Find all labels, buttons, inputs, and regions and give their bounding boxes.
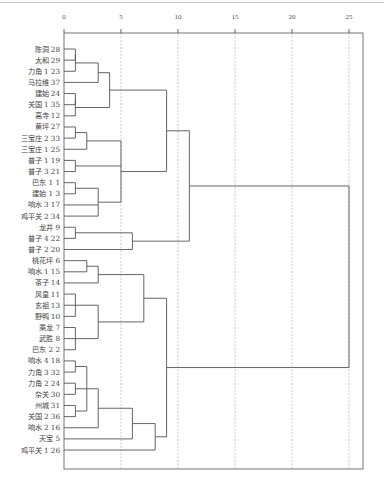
leaf-label: 州城 31: [35, 401, 60, 410]
leaf-label: 普子 4 22: [28, 234, 60, 243]
leaf-label: 风皇 11: [35, 290, 60, 299]
x-tick-label: 25: [346, 13, 354, 21]
leaf-label: 马拉维 37: [28, 78, 61, 87]
dendrogram-links: [64, 49, 349, 450]
x-tick-label: 15: [232, 13, 240, 21]
leaf-label: 普子 2 20: [28, 245, 61, 254]
leaf-label: 响水 3 17: [28, 200, 61, 209]
leaf-label: 巴东 1 1: [32, 178, 60, 187]
leaf-label: 鸡平关 2 34: [21, 212, 61, 221]
x-tick-label: 20: [289, 13, 297, 21]
leaf-labels: 陈洞 28太和 29力角 1 23马拉维 37建始 24关国 1 35高寺 12…: [21, 45, 61, 455]
leaf-label: 力角 2 24: [28, 379, 61, 388]
leaf-label: 巴东 2 2: [32, 345, 60, 354]
leaf-label: 响水 4 18: [28, 356, 61, 365]
leaf-label: 茶子 14: [35, 278, 61, 287]
leaf-label: 杂关 30: [35, 390, 61, 399]
leaf-label: 龙井 9: [39, 223, 60, 232]
dendrogram-chart: 0510152025 陈洞 28太和 29力角 1 23马拉维 37建始 24关…: [0, 0, 384, 492]
leaf-label: 桃花坪 6: [32, 256, 60, 265]
x-axis-ticks: 0510152025: [62, 13, 353, 33]
leaf-label: 黄坪 27: [35, 122, 61, 131]
x-tick-label: 0: [62, 13, 66, 21]
leaf-label: 三宝庄 2 33: [21, 134, 61, 143]
leaf-label: 天宝 5: [39, 434, 60, 443]
x-tick-label: 10: [175, 13, 183, 21]
leaf-label: 高寺 12: [35, 111, 60, 120]
leaf-label: 鸡平关 1 26: [21, 446, 61, 455]
plot-frame: [64, 33, 363, 469]
leaf-label: 玄祖 13: [35, 301, 61, 310]
leaf-label: 陈洞 28: [35, 45, 61, 54]
leaf-label: 普子 3 21: [28, 167, 60, 176]
leaf-label: 力角 3 32: [28, 368, 60, 377]
leaf-label: 响水 1 15: [28, 267, 61, 276]
grid-lines: [121, 33, 349, 469]
leaf-label: 乘龙 7: [39, 323, 60, 332]
leaf-label: 太和 29: [35, 56, 61, 65]
leaf-label: 武胜 8: [39, 334, 60, 343]
leaf-label: 响水 2 16: [28, 423, 61, 432]
leaf-label: 力角 1 23: [28, 67, 61, 76]
x-tick-label: 5: [119, 13, 123, 21]
leaf-label: 三宝庄 1 25: [21, 145, 61, 154]
leaf-label: 野鸭 10: [35, 312, 61, 321]
leaf-label: 关国 1 35: [28, 100, 61, 109]
leaf-label: 建始 1 3: [32, 189, 60, 198]
leaf-label: 普子 1 19: [28, 156, 61, 165]
leaf-label: 建始 24: [35, 89, 61, 98]
leaf-label: 关国 2 36: [28, 412, 61, 421]
